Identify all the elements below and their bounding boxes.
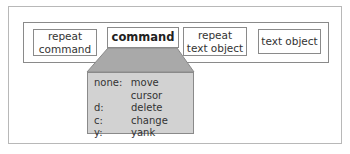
command-row: d: delete — [94, 102, 193, 115]
command-value: move cursor — [131, 77, 193, 102]
command-row: none: move cursor — [94, 77, 193, 102]
command-value: delete — [131, 102, 163, 115]
command-value: yank — [131, 127, 155, 140]
command-key: d: — [94, 102, 131, 115]
command-value: change — [131, 115, 168, 128]
command-table: none: move cursor d: delete c: change y:… — [87, 72, 194, 134]
command-key: y: — [94, 127, 131, 140]
command-key: none: — [94, 77, 131, 102]
command-key: c: — [94, 115, 131, 128]
command-row: c: change — [94, 115, 193, 128]
command-row: y: yank — [94, 127, 193, 140]
